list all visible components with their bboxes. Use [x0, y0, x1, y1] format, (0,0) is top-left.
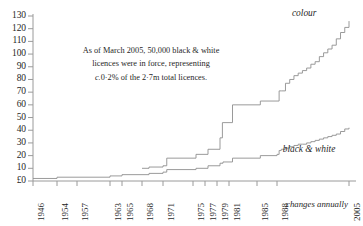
axis-group	[28, 14, 356, 186]
x-tick-label: 1979	[221, 203, 230, 221]
y-tick-label: 50	[0, 113, 26, 123]
x-tick-label: 1977	[209, 203, 218, 221]
annotation-line-3: c.0·2% of the 2·7m total licences.	[46, 71, 256, 84]
chart-container: £0102030405060708090100110120130 1946195…	[0, 0, 363, 226]
y-tick-label: 120	[0, 24, 26, 34]
y-tick-label: 30	[0, 138, 26, 148]
y-tick-label: 130	[0, 11, 26, 21]
chart-annotation: As of March 2005, 50,000 black & white l…	[46, 44, 256, 84]
x-tick-label: 1971	[167, 203, 176, 221]
y-tick-label: 110	[0, 36, 26, 46]
x-tick-label: 1957	[81, 203, 90, 221]
annotation-line-3-rest: 0·2% of the 2·7m total licences.	[101, 73, 207, 82]
y-tick-label: 80	[0, 74, 26, 84]
x-tick-label: 1954	[61, 203, 70, 221]
annotation-line-2: licences were in force, representing	[46, 57, 256, 70]
y-tick-label: 90	[0, 62, 26, 72]
x-tick-label: 2005	[353, 203, 362, 221]
y-tick-label: 70	[0, 87, 26, 97]
series-label-black-and-white: black & white	[283, 144, 336, 154]
x-tick-label: 1946	[37, 203, 46, 221]
y-tick-label: 60	[0, 100, 26, 110]
x-axis-changes-annually-note: changes annually	[286, 200, 348, 209]
x-tick-label: 1975	[197, 203, 206, 221]
x-tick-label: 1968	[146, 203, 155, 221]
y-tick-label: £0	[0, 176, 26, 186]
y-tick-label: 20	[0, 151, 26, 161]
annotation-line-1: As of March 2005, 50,000 black & white	[46, 44, 256, 57]
x-tick-label: 1963	[114, 203, 123, 221]
y-tick-label: 100	[0, 49, 26, 59]
x-tick-label: 1985	[261, 203, 270, 221]
y-tick-label: 10	[0, 163, 26, 173]
series-label-colour: colour	[292, 8, 316, 18]
chart-plot-area	[0, 0, 363, 226]
x-tick-label: 1965	[126, 203, 135, 221]
x-tick-label: 1981	[233, 203, 242, 221]
y-tick-label: 40	[0, 125, 26, 135]
